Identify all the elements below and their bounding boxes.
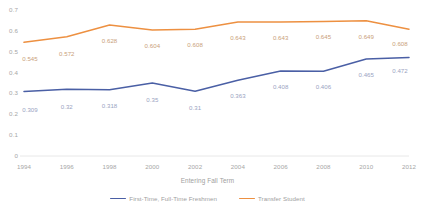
y-axis-tick-label: 0.7 — [2, 6, 18, 13]
data-label: 0.472 — [383, 67, 417, 74]
chart-legend: First-Time, Full-Time FreshmenTransfer S… — [0, 195, 415, 202]
data-label: 0.608 — [178, 41, 212, 48]
data-label: 0.318 — [93, 102, 127, 109]
y-axis-tick-label: 0 — [2, 152, 18, 159]
y-axis-tick-label: 0.5 — [2, 48, 18, 55]
y-axis-tick-label: 0.6 — [2, 27, 18, 34]
data-label: 0.604 — [135, 42, 169, 49]
x-axis-tick-label: 2008 — [309, 163, 337, 170]
data-label: 0.31 — [178, 104, 212, 111]
y-axis-tick-label: 0.3 — [2, 89, 18, 96]
legend-swatch-icon — [239, 198, 255, 200]
x-axis-title: Entering Fall Term — [0, 177, 415, 184]
x-axis-tick-label: 1994 — [10, 163, 38, 170]
x-axis-tick-label: 1996 — [53, 163, 81, 170]
data-label: 0.545 — [13, 55, 47, 62]
y-axis-tick-label: 0.1 — [2, 131, 18, 138]
data-label: 0.628 — [93, 37, 127, 44]
legend-item-0[interactable]: First-Time, Full-Time Freshmen — [110, 195, 217, 202]
legend-swatch-icon — [110, 198, 126, 200]
x-axis-tick-label: 2002 — [181, 163, 209, 170]
x-axis-tick-label: 2010 — [352, 163, 380, 170]
x-axis-tick-label: 2012 — [395, 163, 421, 170]
data-label: 0.645 — [306, 33, 340, 40]
x-axis-tick-label: 2004 — [224, 163, 252, 170]
data-label: 0.465 — [349, 71, 383, 78]
data-label: 0.608 — [383, 40, 417, 47]
data-label: 0.406 — [306, 83, 340, 90]
legend-label: Transfer Student — [258, 195, 305, 202]
data-label: 0.363 — [221, 92, 255, 99]
data-label: 0.309 — [13, 106, 47, 113]
legend-label: First-Time, Full-Time Freshmen — [129, 195, 217, 202]
data-label: 0.572 — [50, 50, 84, 57]
x-axis-tick-label: 2000 — [138, 163, 166, 170]
legend-item-1[interactable]: Transfer Student — [239, 195, 305, 202]
data-label: 0.32 — [50, 103, 84, 110]
y-axis-tick-label: 0.4 — [2, 69, 18, 76]
x-axis-tick-label: 2006 — [267, 163, 295, 170]
data-label: 0.649 — [349, 33, 383, 40]
data-label: 0.35 — [135, 96, 169, 103]
data-label: 0.408 — [264, 83, 298, 90]
data-label: 0.643 — [264, 34, 298, 41]
x-axis-tick-label: 1998 — [96, 163, 124, 170]
data-label: 0.643 — [221, 34, 255, 41]
